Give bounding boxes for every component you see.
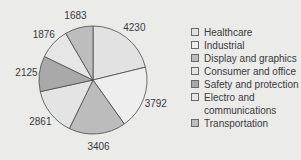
slice-value-label: 2861: [29, 116, 52, 127]
legend-item-consumer-office: Consumer and office: [191, 65, 301, 78]
legend-swatch: [191, 41, 199, 49]
legend-swatch: [191, 28, 199, 36]
legend: Healthcare Industrial Display and graphi…: [191, 26, 301, 130]
legend-swatch: [191, 54, 199, 62]
legend-item-healthcare: Healthcare: [191, 26, 301, 39]
slice-value-label: 1683: [64, 10, 87, 21]
legend-label: Display and graphics: [204, 52, 301, 65]
legend-swatch: [191, 67, 199, 75]
legend-label: Industrial: [204, 39, 301, 52]
slice-value-label: 3792: [145, 98, 168, 109]
legend-item-industrial: Industrial: [191, 39, 301, 52]
legend-label: Transportation: [204, 117, 301, 130]
legend-item-display-graphics: Display and graphics: [191, 52, 301, 65]
legend-item-transportation: Transportation: [191, 117, 301, 130]
legend-label: Consumer and office: [204, 65, 301, 78]
legend-item-safety-protection: Safety and protection: [191, 78, 301, 91]
legend-swatch: [191, 93, 199, 101]
slice-value-label: 4230: [123, 22, 146, 33]
slice-value-label: 1876: [33, 29, 56, 40]
legend-label: Safety and protection: [204, 78, 301, 91]
legend-label: Electro and communications: [204, 91, 301, 117]
legend-item-electro-communications: Electro and communications: [191, 91, 301, 117]
pie-slices: [39, 26, 147, 134]
slice-value-label: 2125: [15, 67, 38, 78]
legend-swatch: [191, 80, 199, 88]
slice-value-label: 3406: [87, 141, 110, 152]
legend-label: Healthcare: [204, 26, 301, 39]
legend-swatch: [191, 119, 199, 127]
